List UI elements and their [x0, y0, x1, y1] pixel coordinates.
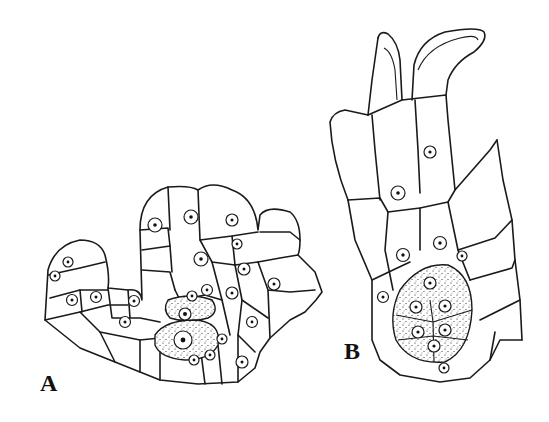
- panel-label-a: A: [40, 370, 57, 397]
- panel-a-drawing: [45, 185, 322, 384]
- panel-b-drawing: [330, 29, 522, 382]
- panel-label-b: B: [344, 338, 360, 365]
- botanical-drawing: [0, 0, 549, 422]
